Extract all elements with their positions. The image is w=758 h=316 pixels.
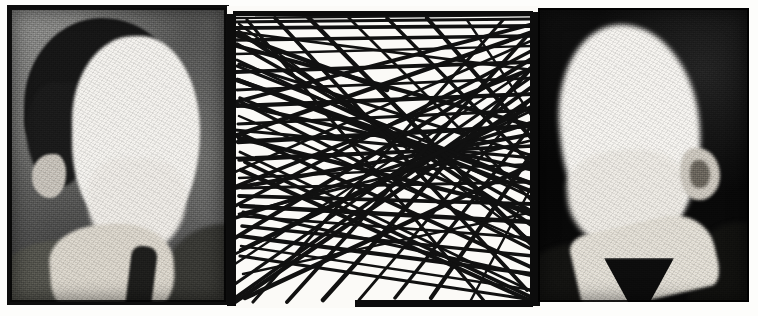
left-portrait-ear xyxy=(32,154,66,198)
left-portrait-photo: Grainy grey-toned studio portrait of a m… xyxy=(10,8,226,302)
right-portrait-photo: High-contrast portrait on a near-black g… xyxy=(538,8,749,302)
scribble-line-field xyxy=(227,6,540,308)
artwork-canvas: Grainy grey-toned studio portrait of a m… xyxy=(0,0,758,316)
scribble-panel: Dense field of long straight black strok… xyxy=(227,6,540,308)
scribble-frame-top-bar xyxy=(233,11,533,16)
scribble-frame-left-bar xyxy=(227,14,236,306)
right-portrait-ear-inner xyxy=(690,160,710,188)
scribble-frame-bottom-bar xyxy=(355,300,533,307)
scribble-stroke xyxy=(235,26,533,28)
